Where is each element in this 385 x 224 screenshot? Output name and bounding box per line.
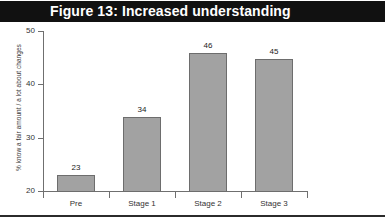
bar-stage-3[interactable]: [255, 59, 293, 192]
plot-area: 50 40 30 20 23 34 46 45 Pre Stage 1 St: [43, 31, 308, 192]
x-tick-separator-0: [43, 192, 44, 198]
x-category-label-stage-1: Stage 1: [109, 199, 175, 208]
bar-pre[interactable]: [57, 175, 95, 192]
y-tick-label-50: 50: [26, 26, 35, 35]
bar-value-stage-3: 45: [255, 47, 293, 56]
bar-value-stage-2: 46: [189, 41, 227, 50]
x-category-label-stage-2: Stage 2: [175, 199, 241, 208]
y-tick-label-40: 40: [26, 79, 35, 88]
page-title: Figure 13: Increased understanding: [50, 3, 291, 20]
x-category-label-stage-3: Stage 3: [241, 199, 307, 208]
x-tick-separator-2: [175, 192, 176, 198]
y-tick-40: 40: [38, 84, 43, 85]
x-tick-separator-4: [307, 192, 308, 198]
y-tick-label-30: 30: [26, 133, 35, 142]
y-axis-line: [43, 31, 44, 192]
bar-value-pre: 23: [57, 163, 95, 172]
x-tick-separator-3: [241, 192, 242, 198]
x-tick-separator-1: [109, 192, 110, 198]
bar-stage-1[interactable]: [123, 117, 161, 192]
bar-stage-2[interactable]: [189, 53, 227, 192]
y-axis-label: % know a fair amount / a lot about chang…: [15, 28, 22, 188]
y-tick-label-20: 20: [26, 186, 35, 195]
bottom-divider: [0, 215, 385, 217]
bar-chart: % know a fair amount / a lot about chang…: [0, 22, 385, 212]
y-tick-30: 30: [38, 138, 43, 139]
y-tick-50: 50: [38, 31, 43, 32]
bar-value-stage-1: 34: [123, 105, 161, 114]
x-category-label-pre: Pre: [43, 199, 109, 208]
figure-title-banner: Figure 13: Increased understanding: [0, 1, 385, 22]
